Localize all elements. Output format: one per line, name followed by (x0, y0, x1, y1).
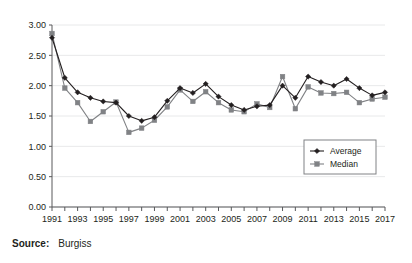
data-point-marker (344, 90, 349, 95)
x-axis-tick-label: 2011 (298, 214, 317, 224)
data-point-marker (382, 90, 387, 95)
x-axis-tick-label: 2003 (196, 214, 216, 224)
data-point-marker (75, 100, 80, 105)
x-axis-tick-label: 2007 (247, 214, 267, 224)
data-point-marker (139, 126, 144, 131)
y-axis-tick-label: 3.00 (28, 20, 46, 30)
x-axis-tick-label: 1997 (119, 214, 139, 224)
legend-label: Median (330, 159, 358, 169)
data-point-marker (127, 130, 132, 135)
data-point-marker (331, 83, 336, 88)
source-label: Source: (12, 238, 49, 249)
series-line (52, 33, 385, 132)
x-axis-tick-labels: 1991199319951997199920012003200520072009… (42, 214, 395, 224)
x-axis-tick-label: 2017 (375, 214, 395, 224)
x-axis-tick-label: 2001 (170, 214, 190, 224)
x-axis-tick-label: 1991 (42, 214, 62, 224)
y-axis-tick-label: 2.50 (28, 51, 46, 61)
data-series (50, 31, 388, 134)
data-point-marker (203, 89, 208, 94)
source-note: Source: Burgiss (12, 238, 92, 249)
series-line (52, 38, 385, 121)
chart-legend: AverageMedian (304, 140, 376, 174)
x-axis-ticks (52, 207, 385, 211)
data-series-layer (49, 31, 387, 134)
x-axis-tick-label: 2009 (273, 214, 293, 224)
legend-label: Average (330, 146, 362, 156)
data-point-marker (306, 74, 311, 79)
chart-figure: 0.000.501.001.502.002.503.00 19911993199… (0, 0, 412, 263)
data-series (49, 35, 387, 123)
x-axis-tick-label: 2005 (221, 214, 241, 224)
y-axis-tick-label: 2.00 (28, 81, 46, 91)
x-axis-tick-label: 2015 (349, 214, 369, 224)
line-chart: 0.000.501.001.502.002.503.00 19911993199… (0, 0, 412, 232)
source-value: Burgiss (58, 238, 91, 249)
data-point-marker (191, 99, 196, 104)
data-point-marker (101, 99, 106, 104)
data-point-marker (88, 119, 93, 124)
grid-lines (52, 25, 385, 207)
data-point-marker (383, 95, 388, 100)
y-axis-tick-label: 0.50 (28, 172, 46, 182)
data-point-marker (165, 105, 170, 110)
data-point-marker (331, 91, 336, 96)
y-axis-tick-label: 0.00 (28, 202, 46, 212)
y-axis-tick-labels: 0.000.501.001.502.002.503.00 (28, 20, 46, 212)
x-axis-tick-label: 1999 (144, 214, 164, 224)
data-point-marker (293, 106, 298, 111)
y-axis-tick-label: 1.00 (28, 142, 46, 152)
x-axis-tick-label: 2013 (324, 214, 344, 224)
data-point-marker (306, 85, 311, 90)
data-point-marker (88, 95, 93, 100)
legend-marker-swatch (315, 162, 320, 167)
data-point-marker (319, 91, 324, 96)
x-axis-tick-label: 1995 (93, 214, 113, 224)
data-point-marker (216, 100, 221, 105)
data-point-marker (280, 74, 285, 79)
chart-canvas: 0.000.501.001.502.002.503.00 19911993199… (0, 0, 412, 232)
data-point-marker (357, 100, 362, 105)
x-axis-tick-label: 1993 (68, 214, 88, 224)
data-point-marker (318, 79, 323, 84)
data-point-marker (63, 86, 68, 91)
y-axis-tick-label: 1.50 (28, 111, 46, 121)
data-point-marker (101, 109, 106, 114)
data-point-marker (139, 118, 144, 123)
data-point-marker (229, 108, 234, 113)
